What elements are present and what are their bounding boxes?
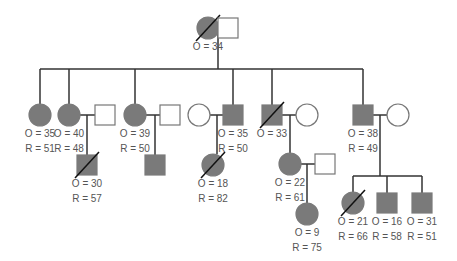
onset-age: O = 16 (372, 216, 402, 228)
circle-symbol-icon (387, 104, 409, 126)
recognition-age: R = 50 (218, 143, 248, 155)
recognition-age: R = 82 (198, 193, 228, 205)
male-individual (223, 105, 243, 125)
individual-label: O = 35R = 51 (25, 128, 55, 155)
male-individual (260, 102, 284, 128)
individual-label: O = 9R = 75 (292, 227, 322, 254)
recognition-age: R = 49 (348, 143, 378, 155)
onset-age: O = 39 (120, 128, 150, 140)
recognition-age: R = 66 (338, 231, 368, 243)
onset-age: O = 9 (292, 227, 322, 239)
circle-symbol-icon (296, 203, 318, 225)
female-individual (124, 104, 146, 126)
female-individual (201, 152, 225, 178)
recognition-age: R = 48 (54, 143, 84, 155)
square-symbol-icon (412, 193, 432, 213)
onset-age: O = 30 (72, 178, 102, 190)
individual-label: O = 38R = 49 (348, 128, 378, 155)
male-individual (353, 105, 373, 125)
individual-label: O = 18R = 82 (198, 178, 228, 205)
female-individual (29, 104, 51, 126)
circle-symbol-icon (296, 104, 318, 126)
male-individual (95, 105, 115, 125)
individual-label: O = 35R = 50 (218, 128, 248, 155)
individual-label: O = 22R = 61 (275, 177, 305, 204)
square-symbol-icon (315, 154, 335, 174)
female-individual (58, 104, 80, 126)
onset-age: O = 21 (338, 216, 368, 228)
female-individual (188, 104, 210, 126)
square-symbol-icon (160, 105, 180, 125)
recognition-age: R = 51 (407, 231, 437, 243)
recognition-age: R = 57 (72, 193, 102, 205)
individual-label: O = 31R = 51 (407, 216, 437, 243)
individual-label: O = 40R = 48 (54, 128, 84, 155)
onset-age: O = 18 (198, 178, 228, 190)
male-individual (315, 154, 335, 174)
onset-age: O = 34 (193, 41, 223, 53)
square-symbol-icon (353, 105, 373, 125)
recognition-age: R = 50 (120, 143, 150, 155)
onset-age: O = 35 (25, 128, 55, 140)
male-individual (412, 193, 432, 213)
male-individual (160, 105, 180, 125)
individual-label: O = 33 (257, 128, 287, 140)
onset-age: O = 33 (257, 128, 287, 140)
recognition-age: R = 75 (292, 242, 322, 254)
square-symbol-icon (145, 155, 165, 175)
female-individual (341, 190, 365, 216)
recognition-age: R = 61 (275, 192, 305, 204)
female-individual (296, 203, 318, 225)
square-symbol-icon (95, 105, 115, 125)
individual-label: O = 30R = 57 (72, 178, 102, 205)
square-symbol-icon (377, 193, 397, 213)
circle-symbol-icon (58, 104, 80, 126)
female-individual (387, 104, 409, 126)
individual-label: O = 21R = 66 (338, 216, 368, 243)
onset-age: O = 35 (218, 128, 248, 140)
female-individual (296, 104, 318, 126)
circle-symbol-icon (188, 104, 210, 126)
circle-symbol-icon (29, 104, 51, 126)
individual-label: O = 16R = 58 (372, 216, 402, 243)
onset-age: O = 40 (54, 128, 84, 140)
onset-age: O = 22 (275, 177, 305, 189)
square-symbol-icon (218, 18, 238, 38)
individual-label: O = 34 (193, 41, 223, 53)
male-individual (145, 155, 165, 175)
recognition-age: R = 51 (25, 143, 55, 155)
female-individual (279, 153, 301, 175)
recognition-age: R = 58 (372, 231, 402, 243)
onset-age: O = 31 (407, 216, 437, 228)
male-individual (377, 193, 397, 213)
male-individual (218, 18, 238, 38)
male-individual (75, 152, 99, 178)
circle-symbol-icon (124, 104, 146, 126)
circle-symbol-icon (279, 153, 301, 175)
individual-label: O = 39R = 50 (120, 128, 150, 155)
onset-age: O = 38 (348, 128, 378, 140)
square-symbol-icon (223, 105, 243, 125)
female-individual (196, 15, 220, 41)
